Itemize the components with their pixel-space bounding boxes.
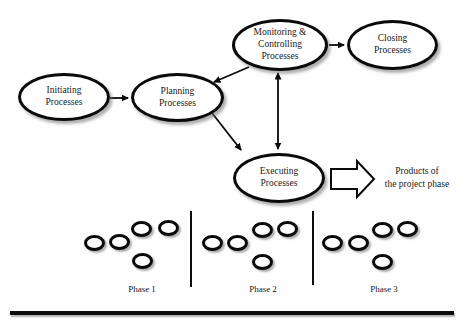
- arrow-planning-to-executing: [212, 113, 241, 150]
- node-label: Planning Processes: [159, 86, 196, 110]
- node-label: Initiating Processes: [46, 85, 83, 109]
- process-ellipse: [132, 253, 153, 269]
- process-groups-diagram: Initiating Processes Planning Processes …: [0, 0, 466, 324]
- block-arrow-right-icon: [331, 161, 374, 197]
- node-executing-processes: Executing Processes: [233, 153, 325, 203]
- arrow-monitoring-to-planning: [214, 67, 249, 82]
- process-ellipse: [372, 222, 393, 238]
- phase-divider-2: [312, 211, 314, 285]
- process-ellipse: [372, 254, 393, 270]
- process-ellipse: [322, 235, 343, 251]
- process-ellipse: [252, 254, 273, 270]
- process-ellipse: [158, 220, 179, 236]
- phase-divider-1: [190, 211, 192, 287]
- process-ellipse: [227, 235, 248, 251]
- node-closing-processes: Closing Processes: [347, 20, 438, 70]
- node-monitoring-controlling-processes: Monitoring & Controlling Processes: [232, 19, 328, 71]
- process-ellipse: [397, 221, 418, 237]
- process-ellipse: [84, 235, 105, 251]
- node-label: Closing Processes: [374, 33, 411, 57]
- node-label: Executing Processes: [260, 166, 299, 190]
- process-ellipse: [202, 235, 223, 251]
- bottom-rule: [10, 311, 454, 315]
- node-initiating-processes: Initiating Processes: [18, 73, 110, 121]
- process-ellipse: [131, 221, 152, 237]
- phase-2-label: Phase 2: [232, 284, 294, 294]
- node-label: Monitoring & Controlling Processes: [253, 27, 306, 63]
- phase-3-label: Phase 3: [353, 284, 415, 294]
- phase-1-label: Phase 1: [111, 284, 173, 294]
- process-ellipse: [109, 234, 130, 250]
- node-planning-processes: Planning Processes: [131, 73, 224, 122]
- process-ellipse: [348, 235, 369, 251]
- products-of-project-phase-label: Products of the project phase: [374, 165, 460, 191]
- process-ellipse: [252, 222, 273, 238]
- process-ellipse: [277, 221, 298, 237]
